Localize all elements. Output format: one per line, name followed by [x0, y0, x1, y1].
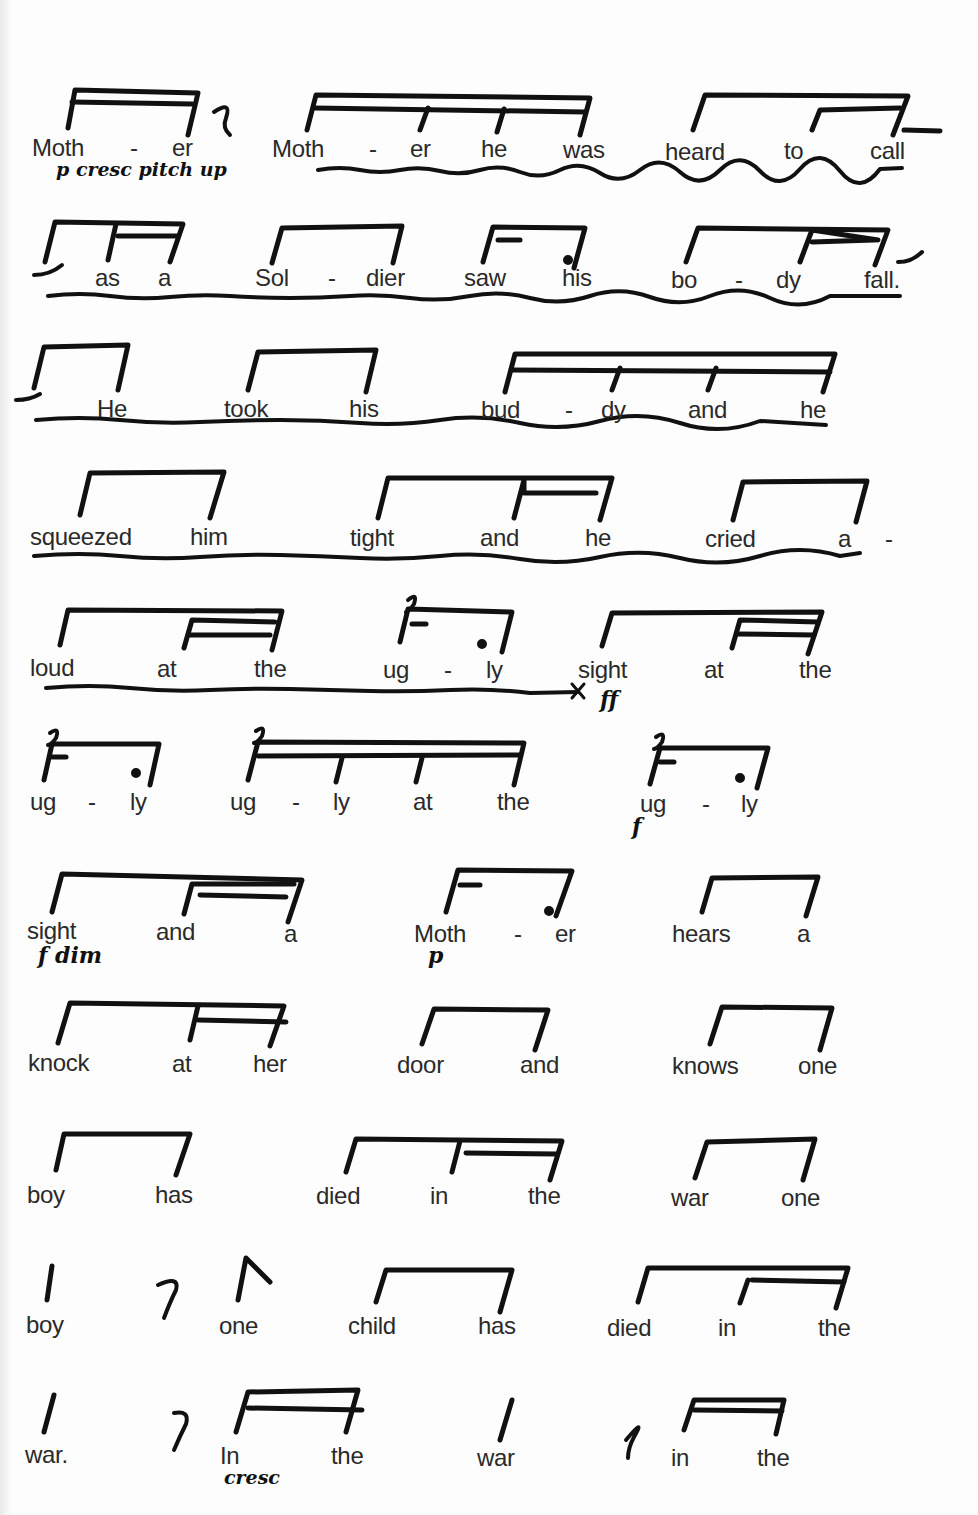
lyric-word: ug: [383, 658, 409, 682]
lyric-word: war.: [25, 1443, 68, 1467]
lyric-word: call: [870, 139, 905, 163]
dynamics-annotation: ff: [600, 688, 618, 710]
lyric-hyphen: -: [514, 922, 522, 946]
lyric-word: er: [410, 137, 431, 161]
lyric-word: ug: [640, 792, 666, 816]
lyric-word: to: [784, 139, 803, 163]
lyric-word: ly: [741, 792, 758, 816]
lyric-word: has: [155, 1183, 193, 1207]
lyric-hyphen: -: [292, 790, 300, 814]
score-page: Moth - er Moth - er he was heard to call…: [0, 0, 978, 1515]
line-6-notation: [44, 728, 768, 788]
lyric-word: door: [397, 1053, 444, 1077]
lyric-hyphen: -: [735, 268, 743, 292]
lyric-word: bo: [671, 268, 697, 292]
lyric-word: heard: [665, 140, 725, 164]
dynamics-annotation: p cresc pitch up: [56, 160, 227, 179]
lyric-word: he: [481, 137, 507, 161]
lyric-word: Moth: [32, 136, 84, 160]
lyric-word: er: [172, 136, 193, 160]
lyric-hyphen: -: [88, 790, 96, 814]
lyric-hyphen: -: [444, 658, 452, 682]
lyric-word: He: [97, 397, 127, 421]
lyric-word: a: [797, 922, 810, 946]
lyric-word: and: [688, 398, 727, 422]
dynamics-annotation: cresc: [224, 1468, 280, 1487]
lyric-word: Moth: [272, 137, 324, 161]
dynamics-annotation: f: [632, 815, 641, 837]
lyric-word: hears: [672, 922, 731, 946]
lyric-word: at: [172, 1052, 191, 1076]
lyric-word: In: [220, 1444, 239, 1468]
lyric-word: his: [562, 266, 592, 290]
lyric-word: he: [585, 526, 611, 550]
lyric-word: saw: [464, 266, 506, 290]
dynamics-annotation: f dim: [38, 944, 102, 966]
lyric-word: one: [219, 1314, 258, 1338]
dynamics-annotation: p: [428, 944, 443, 966]
lyric-word: he: [800, 398, 826, 422]
lyric-word: bud: [481, 398, 520, 422]
lyric-word: the: [757, 1446, 789, 1470]
lyric-word: boy: [27, 1183, 65, 1207]
lyric-hyphen: -: [328, 266, 336, 290]
lyric-word: squeezed: [30, 525, 132, 549]
lyric-word: knock: [28, 1051, 89, 1075]
lyric-word: was: [563, 138, 605, 162]
lyric-word: at: [704, 658, 723, 682]
lyric-word: a: [158, 266, 171, 290]
lyric-word: and: [480, 526, 519, 550]
lyric-word: cried: [705, 527, 756, 551]
lyric-word: him: [190, 525, 228, 549]
lyric-word: dier: [366, 266, 405, 290]
lyric-word: ly: [333, 790, 350, 814]
lyric-word: war: [671, 1186, 709, 1210]
lyric-word: a: [284, 922, 297, 946]
line-7-notation: [52, 870, 818, 922]
lyric-word: fall.: [864, 268, 900, 292]
lyric-word: a: [838, 527, 851, 551]
lyric-word: the: [331, 1444, 363, 1468]
lyric-word: as: [95, 266, 120, 290]
lyric-word: sight: [578, 658, 627, 682]
lyric-word: has: [478, 1314, 516, 1338]
lyric-word: dy: [776, 268, 801, 292]
lyric-word: in: [671, 1446, 689, 1470]
lyric-word: one: [781, 1186, 820, 1210]
lyric-word: tight: [350, 526, 394, 550]
line-8-notation: [58, 1003, 832, 1050]
lyric-word: at: [413, 790, 432, 814]
lyric-word: in: [718, 1316, 736, 1340]
line-10-notation: [47, 1258, 848, 1318]
lyric-word: her: [253, 1052, 287, 1076]
lyric-word: ly: [486, 658, 503, 682]
lyric-word: er: [555, 922, 576, 946]
lyric-word: the: [254, 657, 286, 681]
line-9-notation: [56, 1134, 815, 1180]
lyric-word: ug: [230, 790, 256, 814]
lyric-word: child: [348, 1314, 396, 1338]
lyric-word: the: [497, 790, 529, 814]
lyric-word: dy: [601, 398, 626, 422]
lyric-word: and: [156, 920, 195, 944]
lyric-word: and: [520, 1053, 559, 1077]
lyric-word: died: [607, 1316, 651, 1340]
lyric-hyphen: -: [885, 527, 893, 551]
lyric-word: died: [316, 1184, 360, 1208]
lyric-hyphen: -: [369, 137, 377, 161]
lyric-word: ly: [130, 790, 147, 814]
lyric-word: loud: [30, 656, 74, 680]
lyric-word: the: [818, 1316, 850, 1340]
lyric-word: boy: [26, 1313, 64, 1337]
lyric-word: at: [157, 657, 176, 681]
lyric-hyphen: -: [702, 792, 710, 816]
lyric-word: took: [224, 397, 268, 421]
lyric-word: one: [798, 1054, 837, 1078]
lyric-word: his: [349, 397, 379, 421]
rhythm-notation: [0, 0, 978, 1515]
lyric-word: the: [799, 658, 831, 682]
lyric-hyphen: -: [565, 398, 573, 422]
lyric-hyphen: -: [130, 136, 138, 160]
lyric-word: sight: [27, 919, 76, 943]
lyric-word: Sol: [255, 266, 289, 290]
